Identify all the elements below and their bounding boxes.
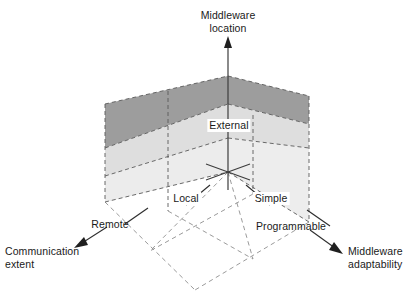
tick-label-simple: Simple	[253, 192, 290, 205]
floor-edge-left	[105, 202, 195, 290]
axis-label-communication-extent: Communication extent	[5, 245, 79, 270]
tick-label-local: Local	[171, 192, 201, 205]
axis-label-middleware-location-line1: Middleware	[201, 9, 256, 22]
right-axis-arrowhead	[329, 242, 343, 254]
floor-grid-line-a	[168, 211, 253, 259]
axis-label-middleware-location: Middleware location	[201, 9, 256, 34]
tick-label-external: External	[207, 119, 250, 132]
right-axis-line	[310, 230, 335, 248]
figure-root: Middleware location External Local Simpl…	[0, 0, 418, 301]
axis-label-middleware-adaptability-line2: adaptability	[348, 258, 403, 271]
floor-grid-line-b	[150, 194, 253, 251]
tick-label-programmable: Programmable	[256, 220, 326, 233]
axis-label-middleware-adaptability: Middleware adaptability	[348, 245, 403, 270]
axis-label-middleware-adaptability-line1: Middleware	[348, 245, 403, 258]
axis-label-communication-extent-line2: extent	[5, 258, 79, 271]
right-axis-arrow	[310, 230, 343, 254]
vertical-axis-arrowhead	[224, 36, 232, 48]
axis-label-communication-extent-line1: Communication	[5, 245, 79, 258]
axis-label-middleware-location-line2: location	[201, 22, 256, 35]
tick-label-remote: Remote	[91, 218, 128, 231]
